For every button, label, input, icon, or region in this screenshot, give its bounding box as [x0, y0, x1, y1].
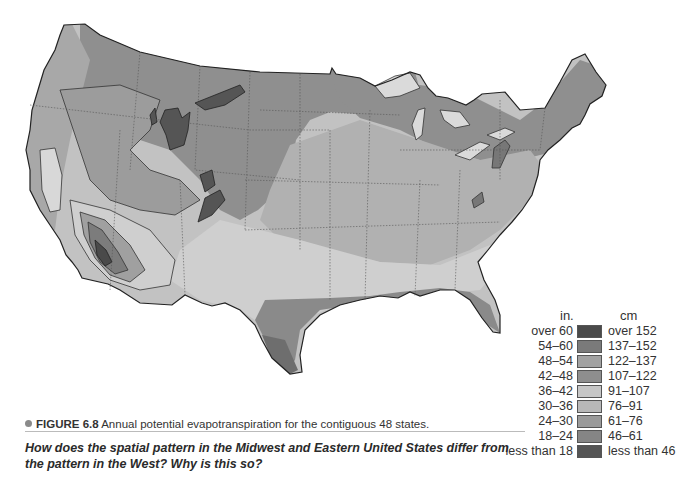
caption-text: Annual potential evapotranspiration for … — [101, 418, 429, 430]
legend-label-in: 24–30 — [538, 414, 573, 428]
legend: in. cm over 60 over 152 54–60 137–152 48… — [520, 308, 688, 448]
legend-label-in: 42–48 — [538, 369, 573, 383]
legend-swatch — [577, 445, 602, 458]
legend-unit-cm: cm — [620, 308, 637, 323]
legend-row: 36–42 91–107 — [520, 384, 688, 399]
figure-number: FIGURE 6.8 — [36, 418, 99, 430]
legend-label-cm: 137–152 — [608, 339, 657, 353]
legend-label-in: 18–24 — [538, 429, 573, 443]
legend-row: 18–24 46–61 — [520, 429, 688, 444]
legend-row: 42–48 107–122 — [520, 369, 688, 384]
legend-label-cm: 91–107 — [608, 384, 650, 398]
legend-label-in: 30–36 — [538, 399, 573, 413]
legend-label-cm: 76–91 — [608, 399, 643, 413]
legend-row: 30–36 76–91 — [520, 399, 688, 414]
legend-swatch — [577, 325, 602, 338]
legend-swatch — [577, 370, 602, 383]
legend-swatch — [577, 415, 602, 428]
legend-row: 54–60 137–152 — [520, 339, 688, 354]
legend-swatch — [577, 400, 602, 413]
bullet-icon — [25, 420, 32, 427]
legend-label-cm: 46–61 — [608, 429, 643, 443]
legend-label-cm: 107–122 — [608, 369, 657, 383]
legend-label-cm: over 152 — [608, 324, 657, 338]
legend-swatch — [577, 340, 602, 353]
legend-row: less than 18 less than 46 — [520, 444, 688, 459]
legend-label-cm: less than 46 — [608, 444, 675, 458]
legend-label-in: over 60 — [531, 324, 573, 338]
legend-label-in: 48–54 — [538, 354, 573, 368]
legend-swatch — [577, 385, 602, 398]
legend-unit-in: in. — [560, 308, 574, 323]
legend-row: 48–54 122–137 — [520, 354, 688, 369]
legend-swatch — [577, 430, 602, 443]
legend-label-cm: 122–137 — [608, 354, 657, 368]
legend-row: 24–30 61–76 — [520, 414, 688, 429]
legend-label-in: 36–42 — [538, 384, 573, 398]
figure-caption: FIGURE 6.8 Annual potential evapotranspi… — [25, 418, 429, 430]
legend-label-in: 54–60 — [538, 339, 573, 353]
figure-question: How does the spatial pattern in the Midw… — [25, 440, 530, 472]
legend-row: over 60 over 152 — [520, 324, 688, 339]
caption-divider — [25, 431, 525, 432]
legend-label-cm: 61–76 — [608, 414, 643, 428]
legend-swatch — [577, 355, 602, 368]
